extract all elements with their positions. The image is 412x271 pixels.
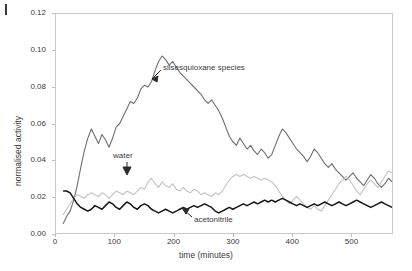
y-tick-mark	[52, 87, 55, 88]
x-tick-mark	[55, 234, 56, 237]
x-tick-mark	[174, 234, 175, 237]
y-tick-label: 0.08	[0, 83, 46, 91]
y-tick-mark	[52, 124, 55, 125]
y-tick-mark	[52, 50, 55, 51]
x-tick-mark	[114, 234, 115, 237]
annotation-water: water	[113, 152, 133, 160]
x-tick-mark	[351, 234, 352, 237]
y-tick-label: 0.12	[0, 9, 46, 17]
x-tick-label: 100	[108, 238, 121, 246]
x-tick-mark	[292, 234, 293, 237]
figure-container: 0.000.020.040.060.080.100.12 01002003004…	[0, 0, 412, 271]
x-tick-label: 200	[167, 238, 180, 246]
y-tick-mark	[52, 160, 55, 161]
y-tick-label: 0.06	[0, 120, 46, 128]
x-axis-label: time (minutes)	[0, 250, 412, 260]
y-tick-label: 0.02	[0, 193, 46, 201]
x-tick-label: 300	[226, 238, 239, 246]
x-tick-label: 500	[345, 238, 358, 246]
x-tick-label: 400	[286, 238, 299, 246]
x-tick-label: 0	[53, 238, 57, 246]
annotation-silsesquioxane: silsesquioxane species	[163, 64, 245, 72]
y-tick-label: 0.00	[0, 230, 46, 238]
y-tick-mark	[52, 197, 55, 198]
y-tick-label: 0.04	[0, 156, 46, 164]
annotation-acetonitrile: acetonitrile	[194, 216, 233, 224]
y-tick-label: 0.10	[0, 46, 46, 54]
x-tick-mark	[233, 234, 234, 237]
plot-area	[55, 13, 393, 234]
series-line-silsesquioxane	[63, 56, 392, 224]
y-tick-mark	[52, 13, 55, 14]
y-axis-label: normalised activity	[13, 116, 23, 186]
curves-svg	[56, 14, 392, 233]
